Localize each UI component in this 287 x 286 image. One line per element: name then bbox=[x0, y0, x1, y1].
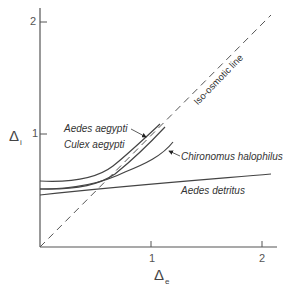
y-tick-label-2: 2 bbox=[30, 16, 36, 27]
label-aedes-detritus: Aedes detritus bbox=[181, 186, 245, 196]
y-axis-label: Δi bbox=[9, 128, 22, 147]
y-tick-label-1: 1 bbox=[32, 128, 38, 139]
y-axis-subscript: i bbox=[20, 138, 22, 147]
label-chironomus-halophilus: Chironomus halophilus bbox=[181, 152, 283, 162]
arrow-chironomus bbox=[169, 151, 180, 156]
x-tick-label-2: 2 bbox=[259, 253, 265, 264]
y-axis-symbol: Δ bbox=[9, 127, 19, 144]
label-culex-aegypti: Culex aegypti bbox=[64, 140, 125, 150]
label-aedes-aegypti: Aedes aegypti bbox=[64, 124, 127, 134]
chart-plot-area bbox=[0, 0, 287, 286]
arrow-aedes-aegypti bbox=[131, 129, 146, 137]
x-axis-label: Δe bbox=[154, 267, 169, 286]
x-axis-subscript: e bbox=[165, 277, 169, 286]
x-tick-label-1: 1 bbox=[149, 253, 155, 264]
x-axis-symbol: Δ bbox=[154, 266, 164, 283]
